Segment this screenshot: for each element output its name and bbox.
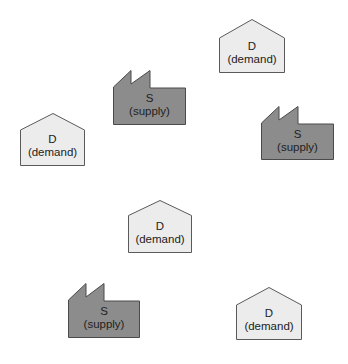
demand-word: (demand): [20, 146, 85, 159]
supply-node-3: S (supply): [68, 283, 140, 338]
supply-node-2: S (supply): [261, 106, 334, 160]
demand-letter: D: [20, 133, 85, 146]
demand-node-2: D (demand): [20, 113, 85, 166]
demand-node-3: D (demand): [128, 200, 192, 253]
demand-letter: D: [236, 307, 302, 320]
supply-demand-diagram: D (demand) S (supply) D (demand) S (supp…: [0, 0, 348, 364]
supply-node-1: S (supply): [113, 70, 186, 125]
demand-letter: D: [128, 220, 192, 233]
supply-word: (supply): [113, 105, 186, 118]
demand-node-1: D (demand): [219, 19, 285, 73]
supply-letter: S: [261, 128, 334, 141]
supply-letter: S: [113, 92, 186, 105]
supply-letter: S: [68, 305, 140, 318]
supply-word: (supply): [261, 141, 334, 154]
demand-word: (demand): [219, 53, 285, 66]
demand-word: (demand): [236, 320, 302, 333]
demand-node-4: D (demand): [236, 287, 302, 340]
demand-letter: D: [219, 40, 285, 53]
supply-word: (supply): [68, 318, 140, 331]
demand-word: (demand): [128, 233, 192, 246]
